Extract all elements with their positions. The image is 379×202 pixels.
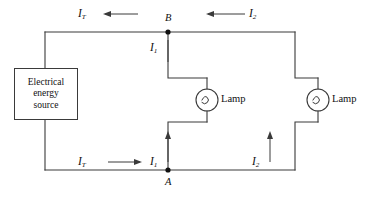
circuit-diagram-figure: Electrical energy source IT I2 I1 IT I1 … [0, 0, 379, 202]
electrical-energy-source-box: Electrical energy source [14, 68, 78, 120]
current-label-I-1-bottom: I1 [150, 156, 157, 168]
source-line-1: Electrical [28, 77, 64, 88]
lamp-2-label: Lamp [332, 94, 357, 105]
lamp-1-envelope [196, 89, 218, 111]
current-label-I-2-top: I2 [249, 8, 256, 20]
lamp-2-filament [313, 97, 320, 104]
wire-b-to-lamp1-top [168, 32, 207, 78]
node-label-b: B [165, 13, 171, 24]
wire-lamp1-to-a-bottom [168, 122, 207, 170]
arrow-I-1-bottom [165, 131, 171, 162]
wire-lamp2-to-bottom-right [295, 122, 318, 170]
wire-top-right-to-lamp2 [295, 32, 318, 78]
source-line-2: energy [33, 88, 59, 99]
arrow-I-T-top [103, 11, 138, 17]
node-label-a: A [165, 177, 171, 188]
current-label-I-1-top: I1 [150, 42, 157, 54]
arrow-I-T-bottom [108, 159, 142, 165]
source-line-3: source [34, 100, 59, 111]
current-label-I-T-top: IT [78, 8, 86, 20]
lamp-1-label: Lamp [221, 94, 246, 105]
node-a-dot [165, 167, 170, 172]
node-b-dot [165, 29, 170, 34]
arrow-I-2-bottom [267, 131, 273, 162]
current-label-I-T-bottom: IT [78, 156, 86, 168]
lamp-2-envelope [307, 89, 329, 111]
lamp-1-filament [202, 97, 209, 104]
arrow-I-2-top [206, 11, 245, 17]
current-label-I-2-bottom: I2 [252, 156, 259, 168]
